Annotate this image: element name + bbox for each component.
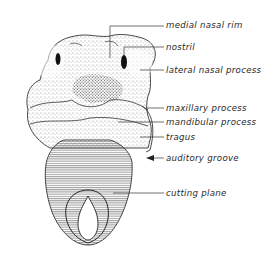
nostril-left	[56, 53, 61, 65]
label-cutting-plane: cutting plane	[166, 188, 227, 198]
label-auditory-groove: auditory groove	[166, 153, 239, 163]
label-maxillary-process: maxillary process	[166, 103, 247, 113]
nostril-right	[121, 55, 127, 69]
diagram-drawing	[0, 0, 265, 266]
label-medial-nasal-rim: medial nasal rim	[166, 20, 243, 30]
cutting-plane-region	[45, 140, 132, 245]
auditory-groove-arrow	[146, 155, 154, 161]
label-nostril: nostril	[166, 42, 195, 52]
label-lateral-nasal-process: lateral nasal process	[166, 65, 261, 75]
label-mandibular-process: mandibular process	[166, 117, 256, 127]
embryo-head-diagram: medial nasal rim nostril lateral nasal p…	[0, 0, 265, 266]
label-tragus: tragus	[166, 132, 195, 142]
head-outline	[27, 35, 155, 152]
